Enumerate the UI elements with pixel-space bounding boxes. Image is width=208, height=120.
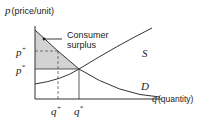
q-star-label: q* bbox=[74, 104, 84, 117]
supply-demand-diagram: p(price/unit) q(quantity) Consumer surpl… bbox=[0, 0, 208, 120]
annotation-line1: Consumer bbox=[67, 30, 109, 40]
q-plus-label: q+ bbox=[51, 104, 62, 117]
annotation-line2: surplus bbox=[67, 40, 97, 50]
demand-label: D bbox=[140, 80, 149, 92]
p-plus-label: p+ bbox=[15, 45, 27, 58]
supply-label: S bbox=[142, 47, 148, 59]
y-axis-label: p(price/unit) bbox=[4, 4, 54, 16]
annotation-arrow-dot bbox=[43, 38, 46, 41]
p-star-label: p* bbox=[15, 63, 26, 76]
x-axis-label: q(quantity) bbox=[152, 93, 194, 104]
